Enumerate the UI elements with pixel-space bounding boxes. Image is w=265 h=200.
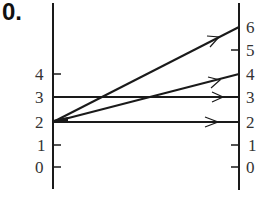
- left-tick-2: 2: [35, 113, 44, 132]
- left-tick-1: 1: [37, 136, 46, 155]
- right-ticks: [231, 50, 239, 167]
- right-tick-5: 5: [246, 41, 255, 60]
- left-tick-0: 0: [35, 158, 44, 177]
- right-tick-4: 4: [246, 65, 255, 84]
- right-tick-2: 2: [246, 113, 255, 132]
- mapping-diagram: 4 3 2 1 0 6 5 4 3 2 1 0: [0, 0, 265, 200]
- right-tick-1: 1: [248, 136, 257, 155]
- left-tick-4: 4: [35, 65, 44, 84]
- right-tick-0: 0: [246, 158, 255, 177]
- left-tick-3: 3: [35, 88, 44, 107]
- arrow-2-to-6: [53, 27, 239, 122]
- right-tick-3: 3: [246, 88, 255, 107]
- right-tick-6: 6: [246, 18, 255, 37]
